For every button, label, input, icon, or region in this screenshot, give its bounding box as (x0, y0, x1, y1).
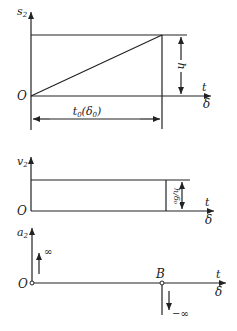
B-label: B (155, 267, 165, 281)
displacement-panel: h t0(δ0) s2 O t δ (17, 5, 211, 130)
t0-label: t0(δ0) (73, 105, 102, 119)
delta-label-2: δ (205, 213, 212, 227)
motion-curves-diagram: h t0(δ0) s2 O t δ h/δ₀ v2 O t δ ∞ −∞ (0, 0, 237, 331)
t-label-3: t (216, 268, 221, 281)
h-over-delta0-label: h/δ₀ (172, 188, 181, 205)
delta-label-3: δ (215, 285, 222, 299)
origin-label-2: O (17, 204, 27, 218)
inf-label: ∞ (44, 246, 52, 257)
origin-label-3: O (18, 277, 28, 291)
neg-inf-label: −∞ (172, 308, 189, 319)
s2-label: s2 (17, 5, 28, 19)
acceleration-panel: ∞ −∞ B a2 O t δ (17, 226, 226, 319)
a2-label: a2 (17, 226, 29, 240)
diagram-canvas: h t0(δ0) s2 O t δ h/δ₀ v2 O t δ ∞ −∞ (0, 0, 237, 331)
h-label: h (175, 62, 188, 69)
velocity-panel: h/δ₀ v2 O t δ (17, 155, 214, 227)
displacement-line (31, 35, 162, 96)
t-label-1: t (202, 81, 207, 94)
t-label-2: t (205, 196, 210, 209)
v2-label: v2 (17, 155, 28, 169)
delta-label-1: δ (203, 97, 210, 111)
origin-label-1: O (17, 89, 27, 103)
origin-point (30, 281, 34, 285)
point-B (160, 281, 164, 285)
